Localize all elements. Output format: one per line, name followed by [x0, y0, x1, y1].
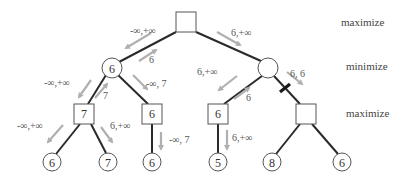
node-min-left-value: 6	[109, 62, 115, 76]
leaf-5-value: 8	[269, 156, 275, 170]
leaf-1: 6	[43, 153, 61, 171]
arrow-maxll-to-leaf1	[48, 125, 63, 142]
leaf-4-value: 5	[215, 156, 221, 170]
node-max-ll: 7	[74, 104, 94, 124]
ann-minright-to-maxrr: 6, 6	[290, 68, 305, 79]
node-max-rl: 6	[208, 104, 228, 124]
ann-maxll-to-leaf2: 6,+∞	[110, 120, 130, 131]
level-label-maximize-bottom: maximize	[346, 107, 389, 119]
leaf-6-value: 6	[339, 156, 345, 170]
edge-maxrr-leaf6	[312, 124, 338, 154]
arrow-minleft-to-maxll	[79, 80, 91, 97]
node-max-rr	[296, 104, 316, 124]
level-label-minimize: minimize	[346, 60, 388, 72]
node-max-ll-value: 7	[81, 107, 87, 121]
node-min-left: 6	[102, 58, 122, 78]
edge-maxrr-leaf5	[276, 124, 300, 154]
edge-minright-maxrl	[224, 76, 262, 104]
leaf-6: 6	[333, 153, 351, 171]
leaf-5: 8	[263, 153, 281, 171]
ann-minleft-to-maxlr: -∞, 7	[146, 78, 166, 89]
ann-minleft-to-maxll: -∞,+∞	[44, 77, 70, 88]
alpha-beta-tree-diagram: 6 7 6 6 6 7 6 5 8 6	[0, 0, 406, 184]
leaf-1-value: 6	[49, 156, 55, 170]
ann-minright-to-maxrl: 6,+∞	[197, 66, 217, 77]
node-root	[176, 12, 196, 32]
ann-maxlr-to-leaf3: -∞, 7	[169, 134, 189, 145]
edge-minleft-maxlr	[118, 75, 148, 104]
arrow-minleft-to-maxlr	[133, 75, 147, 89]
ann-maxrl-to-leaf4: 6,+∞	[232, 132, 252, 143]
leaf-3-value: 6	[149, 156, 155, 170]
arrow-minright-to-maxrl	[219, 76, 237, 90]
leaf-3: 6	[143, 153, 161, 171]
leaf-2: 7	[99, 153, 117, 171]
leaf-2-value: 7	[105, 156, 111, 170]
ann-maxll-to-leaf1: -∞,+∞	[17, 120, 43, 131]
node-min-right	[258, 58, 278, 78]
ann-maxll-to-minleft: 7	[103, 90, 108, 101]
ann-maxrl-to-minright: 6	[246, 92, 251, 103]
leaf-4: 5	[209, 153, 227, 171]
ann-root-to-minleft: -∞,+∞	[130, 25, 156, 36]
level-label-maximize-top: maximize	[341, 16, 384, 28]
node-max-lr: 6	[142, 104, 162, 124]
edge-maxll-leaf2	[91, 124, 106, 153]
ann-minleft-to-root: 6	[149, 54, 154, 65]
ann-root-to-minright: 6,+∞	[231, 27, 251, 38]
node-max-rl-value: 6	[215, 107, 221, 121]
node-max-lr-value: 6	[149, 107, 155, 121]
